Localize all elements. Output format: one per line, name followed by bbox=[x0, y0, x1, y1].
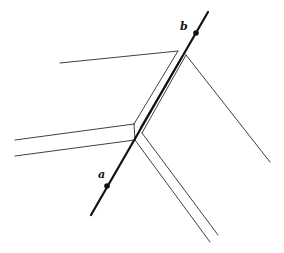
left-plane-fold-edge bbox=[134, 51, 178, 124]
left-plane-top-edge bbox=[60, 51, 178, 63]
left-plane-lower-edge-2 bbox=[15, 140, 135, 156]
point-b-label: b bbox=[180, 20, 188, 33]
point-a-marker bbox=[104, 183, 110, 189]
right-plane-upper-edge bbox=[186, 55, 270, 162]
point-b-marker bbox=[193, 30, 199, 36]
right-plane-lower-edge-2 bbox=[142, 133, 218, 235]
left-plane-lower-edge-1 bbox=[15, 124, 134, 140]
right-plane bbox=[135, 55, 270, 242]
point-a-label: a bbox=[98, 168, 105, 181]
dihedral-diagram: b a bbox=[0, 0, 284, 253]
right-plane-lower-edge-1 bbox=[135, 140, 210, 242]
left-plane bbox=[15, 51, 182, 156]
right-plane-fold-edge bbox=[142, 55, 186, 133]
